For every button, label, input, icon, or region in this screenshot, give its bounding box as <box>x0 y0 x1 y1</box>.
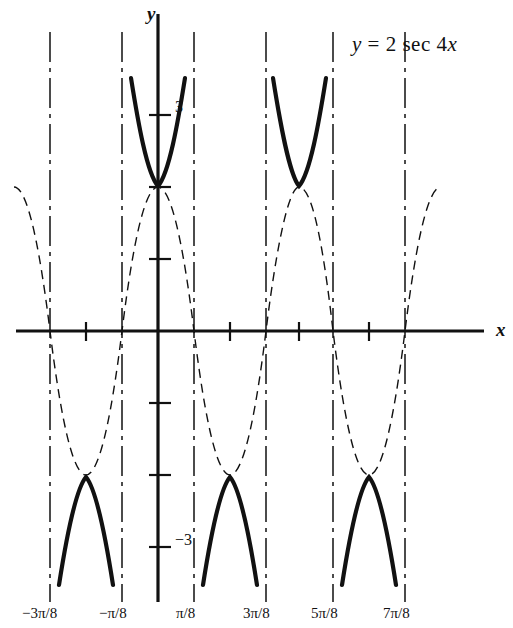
x-axis-label: x <box>496 320 506 339</box>
equation-equals: = <box>368 32 380 56</box>
x-tick-label-neg-pi-8: −π/8 <box>99 606 127 621</box>
plot-canvas <box>0 0 513 628</box>
equation-function: sec <box>402 32 430 56</box>
y-axis-label: y <box>147 4 155 23</box>
equation-argument: 4x <box>437 32 458 56</box>
equation-lhs: y <box>352 32 362 56</box>
x-tick-label-3pi-8: 3π/8 <box>243 606 270 621</box>
y-tick-label-neg3: −3 <box>175 532 192 548</box>
x-tick-label-neg-3pi-8: −3π/8 <box>22 606 57 621</box>
x-tick-label-pi-8: π/8 <box>176 606 195 621</box>
y-tick-label-3: 3 <box>175 99 183 115</box>
x-tick-label-7pi-8: 7π/8 <box>383 606 410 621</box>
secant-graph-figure: y x 3 −3 −3π/8 −π/8 π/8 3π/8 5π/8 7π/8 y… <box>0 0 513 628</box>
equation-amplitude: 2 <box>386 32 397 56</box>
x-tick-label-5pi-8: 5π/8 <box>311 606 338 621</box>
equation-annotation: y = 2 sec 4x <box>352 34 457 55</box>
